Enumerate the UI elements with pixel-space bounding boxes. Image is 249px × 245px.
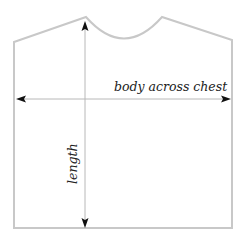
length-label: length (65, 143, 80, 184)
garment-outline (14, 17, 232, 228)
garment-schematic: body across chest length (0, 0, 249, 245)
chest-width-measure (16, 96, 231, 103)
length-measure (82, 21, 89, 228)
chest-width-label: body across chest (114, 79, 228, 94)
